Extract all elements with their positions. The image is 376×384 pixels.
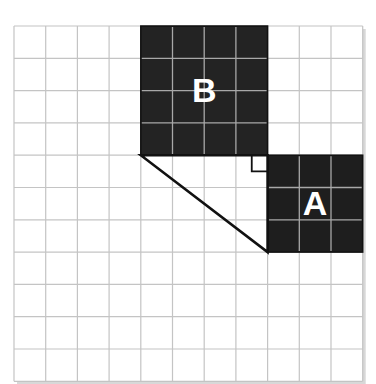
square-label-a: A — [303, 184, 328, 222]
pythagorean-grid-diagram: BA — [0, 0, 376, 384]
square-label-b: B — [192, 71, 217, 109]
